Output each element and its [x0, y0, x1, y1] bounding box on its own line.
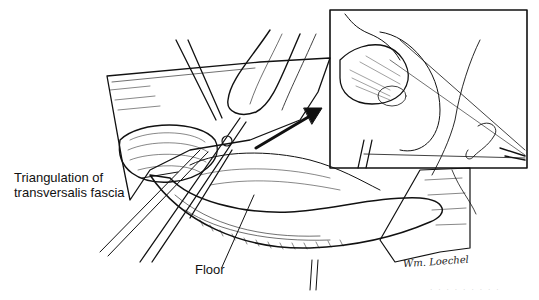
- label-triangulation-line2: transversalis fascia: [14, 185, 125, 200]
- forceps-left: [176, 40, 222, 120]
- label-triangulation: Triangulation of transversalis fascia: [14, 170, 125, 200]
- scissors-lower: [140, 118, 246, 262]
- retractor: [228, 30, 300, 114]
- inset-box: [330, 10, 527, 168]
- label-triangulation-line1: Triangulation of: [14, 170, 125, 185]
- arrow: [256, 116, 310, 148]
- right-drape: [380, 168, 470, 262]
- label-floor: Floor: [195, 262, 225, 277]
- faint-caption: · · · · · · · · ·: [430, 286, 501, 293]
- inset-drawing: [340, 14, 525, 175]
